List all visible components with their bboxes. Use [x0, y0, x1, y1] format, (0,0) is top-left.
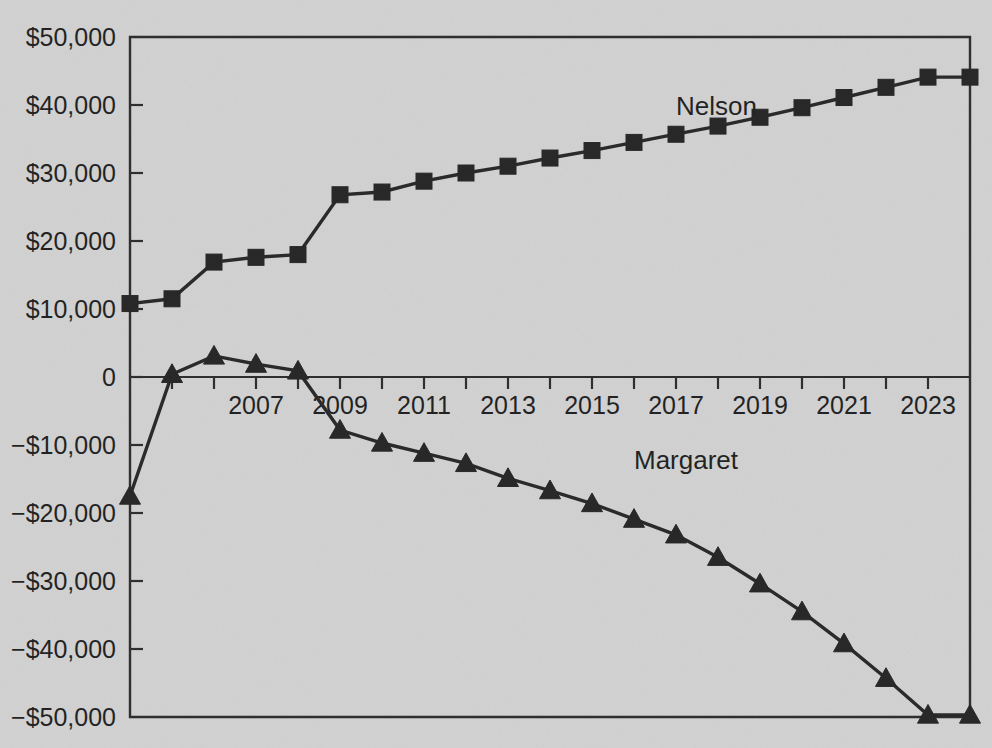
data-point-marker — [792, 601, 813, 620]
data-point-marker — [962, 69, 978, 85]
data-point-marker — [374, 184, 390, 200]
y-axis-tick-label: $30,000 — [26, 159, 116, 187]
y-axis-tick-label: −$10,000 — [11, 431, 116, 459]
x-axis-tick-label: 2011 — [397, 391, 451, 419]
y-axis-tick-label: −$30,000 — [11, 567, 116, 595]
y-axis-tick-label: −$50,000 — [11, 703, 116, 731]
series-label-nelson: Nelson — [676, 91, 757, 121]
y-axis-tick-label: $40,000 — [26, 91, 116, 119]
data-point-marker — [626, 134, 642, 150]
data-point-marker — [458, 165, 474, 181]
data-point-marker — [204, 345, 225, 364]
data-point-marker — [332, 187, 348, 203]
y-axis-tick-label: 0 — [102, 363, 116, 391]
series-nelson — [122, 69, 978, 311]
y-axis-tick-label: $10,000 — [26, 295, 116, 323]
x-axis-tick-label: 2019 — [732, 391, 788, 419]
data-point-marker — [878, 79, 894, 95]
data-point-marker — [794, 100, 810, 116]
y-axis-ticks — [130, 105, 143, 649]
line-chart: $50,000$40,000$30,000$20,000$10,0000−$10… — [0, 0, 992, 748]
data-point-marker — [542, 150, 558, 166]
x-axis-tick-labels: 200720092011201320152017201920212023 — [228, 391, 956, 419]
x-axis-tick-label: 2021 — [816, 391, 872, 419]
data-point-marker — [500, 158, 516, 174]
x-axis-ticks — [172, 377, 928, 389]
data-point-marker — [750, 573, 771, 592]
data-point-marker — [668, 126, 684, 142]
data-point-marker — [120, 486, 141, 505]
data-point-marker — [584, 143, 600, 159]
data-point-marker — [708, 547, 729, 566]
x-axis-tick-label: 2017 — [648, 391, 704, 419]
x-axis-tick-label: 2007 — [228, 391, 284, 419]
y-axis-tick-labels: $50,000$40,000$30,000$20,000$10,0000−$10… — [11, 23, 116, 731]
x-axis-tick-label: 2023 — [900, 391, 956, 419]
y-axis-tick-label: $20,000 — [26, 227, 116, 255]
data-point-marker — [920, 69, 936, 85]
data-point-marker — [162, 364, 183, 383]
y-axis-tick-label: −$20,000 — [11, 499, 116, 527]
series-label-margaret: Margaret — [634, 445, 739, 475]
x-axis-tick-label: 2015 — [564, 391, 620, 419]
data-point-marker — [164, 291, 180, 307]
y-axis-tick-label: $50,000 — [26, 23, 116, 51]
data-point-marker — [122, 296, 138, 312]
data-point-marker — [836, 90, 852, 106]
data-point-marker — [248, 249, 264, 265]
x-axis-tick-label: 2013 — [480, 391, 536, 419]
data-point-marker — [290, 247, 306, 263]
chart-container: $50,000$40,000$30,000$20,000$10,0000−$10… — [0, 0, 992, 748]
data-point-marker — [416, 173, 432, 189]
data-point-marker — [206, 254, 222, 270]
y-axis-tick-label: −$40,000 — [11, 635, 116, 663]
